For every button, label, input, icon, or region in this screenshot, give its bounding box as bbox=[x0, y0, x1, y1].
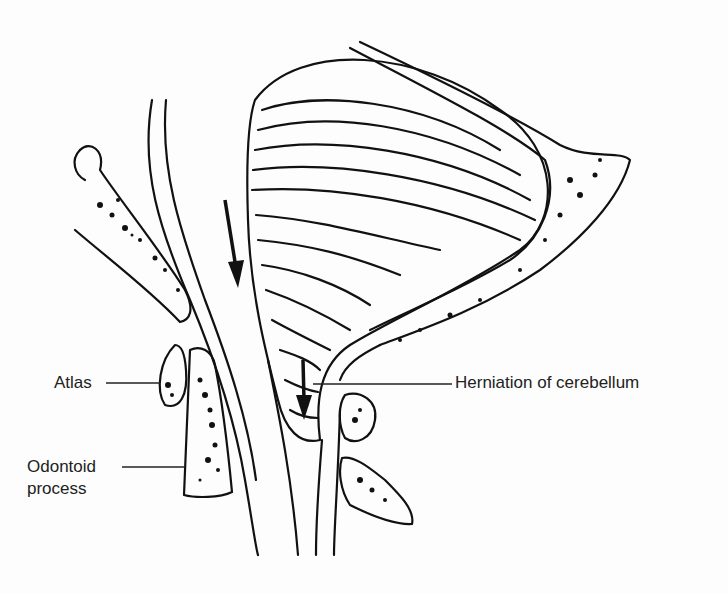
arrow-upper-icon bbox=[225, 200, 244, 288]
occipital-bone-outer bbox=[360, 42, 630, 345]
anatomy-illustration bbox=[0, 0, 728, 594]
cord-anterior bbox=[268, 360, 298, 555]
atlas-anterior-arch bbox=[160, 345, 187, 406]
axis-spinous-process bbox=[340, 458, 412, 524]
odontoid-label-line2: process bbox=[27, 479, 87, 499]
herniation-label: Herniation of cerebellum bbox=[455, 373, 639, 393]
dura-posterior bbox=[334, 410, 340, 555]
odontoid-process bbox=[184, 348, 232, 497]
diagram-canvas: Atlas Odontoid process Herniation of cer… bbox=[0, 0, 728, 594]
atlas-label: Atlas bbox=[54, 373, 92, 393]
spinal-canal-anterior-wall bbox=[148, 100, 258, 555]
odontoid-label-line1: Odontoid bbox=[27, 457, 96, 477]
atlas-posterior-arch bbox=[340, 394, 376, 441]
cord-posterior bbox=[316, 440, 322, 555]
